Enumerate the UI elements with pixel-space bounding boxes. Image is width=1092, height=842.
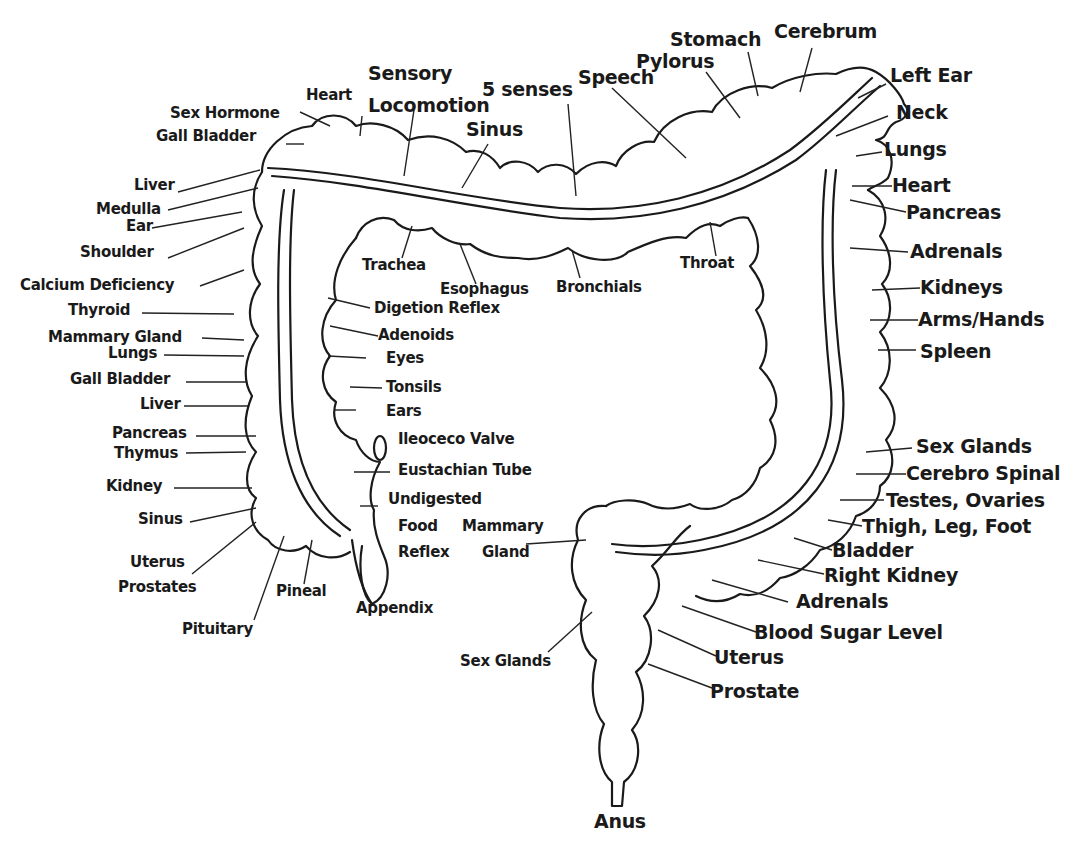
label-cerebrum: Cerebrum [774,22,877,41]
label-mammary-gland-left: Mammary Gland [48,330,182,345]
label-thigh-leg-foot: Thigh, Leg, Foot [862,517,1031,536]
label-undigested: Undigested [388,492,482,507]
label-kidneys: Kidneys [920,278,1003,297]
label-ear: Ear [126,219,153,234]
label-blood-sugar-level: Blood Sugar Level [754,623,943,642]
label-eustachian-tube: Eustachian Tube [398,463,532,478]
label-testes-ovaries: Testes, Ovaries [886,491,1045,510]
label-adrenals-lower: Adrenals [796,592,888,611]
label-trachea: Trachea [362,258,426,273]
label-sex-hormone: Sex Hormone [170,106,280,121]
label-prostate: Prostate [710,682,799,701]
label-prostates: Prostates [118,580,197,595]
label-spleen: Spleen [920,342,991,361]
label-lungs-right: Lungs [884,140,947,159]
label-sensory: Sensory [368,64,452,83]
label-uterus-right: Uterus [714,648,784,667]
label-liver-top: Liver [134,178,175,193]
label-tonsils: Tonsils [386,380,441,395]
label-heart-top: Heart [306,88,352,103]
colon-reflex-diagram: Sensory Locomotion Heart Sex Hormone Gal… [0,0,1092,842]
label-5-senses: 5 senses [482,80,573,99]
label-sinus-top: Sinus [466,120,523,139]
label-sex-glands-bottom: Sex Glands [460,654,551,669]
label-reflex: Reflex [398,545,449,560]
label-digestion-reflex: Digetion Reflex [374,301,500,316]
label-gall-bladder-left: Gall Bladder [70,372,170,387]
label-kidney-left: Kidney [106,479,162,494]
label-cerebro-spinal: Cerebro Spinal [906,464,1060,483]
label-eyes: Eyes [386,351,424,366]
label-neck: Neck [896,103,948,122]
label-medulla: Medulla [96,202,161,217]
label-uterus-left: Uterus [130,555,185,570]
label-anus: Anus [594,812,646,831]
label-thymus: Thymus [114,446,178,461]
label-ears: Ears [386,404,422,419]
label-lungs-left: Lungs [108,346,157,361]
label-bladder: Bladder [832,541,913,560]
label-pineal: Pineal [276,584,326,599]
label-bronchials: Bronchials [556,280,642,295]
label-thyroid: Thyroid [68,303,130,318]
label-left-ear: Left Ear [890,66,972,85]
label-right-kidney: Right Kidney [824,566,958,585]
label-adrenals-right: Adrenals [910,242,1002,261]
label-throat: Throat [680,256,734,271]
label-mammary: Mammary [462,519,544,534]
label-appendix: Appendix [356,601,433,616]
label-sex-glands-right: Sex Glands [916,437,1032,456]
label-calcium-deficiency: Calcium Deficiency [20,278,174,293]
label-pancreas-right: Pancreas [906,203,1001,222]
label-sinus-left: Sinus [138,512,183,527]
label-pancreas-left: Pancreas [112,426,187,441]
label-adenoids: Adenoids [378,328,454,343]
label-stomach: Stomach [670,30,761,49]
label-ileoceco-valve: Ileoceco Valve [398,432,515,447]
label-arms-hands: Arms/Hands [918,310,1044,329]
label-gland: Gland [482,545,530,560]
label-pylorus: Pylorus [636,52,714,71]
label-liver-left: Liver [140,397,181,412]
label-shoulder: Shoulder [80,245,154,260]
label-locomotion: Locomotion [368,96,490,115]
label-esophagus: Esophagus [440,282,529,297]
label-gall-bladder-top: Gall Bladder [156,129,256,144]
label-heart-right: Heart [892,176,951,195]
label-food: Food [398,519,438,534]
label-pituitary: Pituitary [182,622,253,637]
